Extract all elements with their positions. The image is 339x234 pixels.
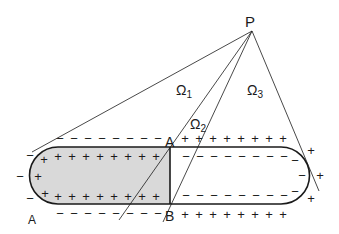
svg-text:−: −: [84, 131, 92, 146]
svg-text:−: −: [154, 131, 162, 146]
charges-outer-top-right: + + + + + + + +: [181, 131, 287, 146]
svg-text:+: +: [152, 149, 160, 164]
svg-text:−: −: [266, 149, 274, 164]
svg-text:−: −: [196, 188, 204, 203]
svg-text:−: −: [182, 149, 190, 164]
label-A-top: A: [165, 134, 175, 150]
svg-text:−: −: [291, 184, 299, 199]
charges-inner-right-top: − − − − − − − −: [182, 149, 288, 164]
svg-text:+: +: [96, 189, 104, 204]
svg-text:+: +: [223, 131, 231, 146]
svg-text:−: −: [210, 149, 218, 164]
svg-text:−: −: [210, 188, 218, 203]
svg-text:+: +: [110, 149, 118, 164]
svg-text:−: −: [112, 131, 120, 146]
label-B-bottom: B: [165, 208, 174, 224]
svg-text:+: +: [41, 186, 49, 201]
svg-text:+: +: [124, 149, 132, 164]
svg-text:+: +: [181, 131, 189, 146]
svg-text:+: +: [96, 149, 104, 164]
svg-text:+: +: [279, 131, 287, 146]
svg-text:+: +: [110, 189, 118, 204]
svg-text:+: +: [152, 189, 160, 204]
svg-text:−: −: [16, 169, 24, 184]
svg-text:−: −: [26, 191, 34, 206]
label-omega3: Ω3: [247, 82, 263, 100]
svg-text:+: +: [265, 207, 273, 222]
svg-text:+: +: [82, 149, 90, 164]
svg-text:−: −: [140, 206, 148, 221]
svg-text:−: −: [224, 149, 232, 164]
label-omega1: Ω1: [176, 82, 192, 100]
charges-outer-bottom-right: + + + + + + + +: [181, 207, 287, 222]
svg-text:−: −: [238, 188, 246, 203]
charges-outer-top-left: − − − − − − − −: [56, 131, 162, 146]
svg-text:−: −: [196, 149, 204, 164]
charges-outer-bottom-left: − − − − − − − −: [56, 206, 162, 221]
svg-text:−: −: [70, 131, 78, 146]
svg-text:+: +: [68, 189, 76, 204]
svg-text:+: +: [307, 143, 315, 158]
svg-text:−: −: [56, 206, 64, 221]
ray-tangent-right: [252, 31, 319, 191]
svg-text:−: −: [98, 206, 106, 221]
svg-text:−: −: [98, 131, 106, 146]
svg-text:−: −: [224, 188, 232, 203]
svg-text:+: +: [237, 207, 245, 222]
svg-text:−: −: [280, 188, 288, 203]
svg-text:−: −: [280, 149, 288, 164]
charges-inner-right-bottom: − − − − − − − −: [182, 188, 288, 203]
charge-inner-left-cap: +: [34, 169, 42, 184]
svg-text:−: −: [238, 149, 246, 164]
svg-text:+: +: [265, 131, 273, 146]
svg-text:−: −: [252, 149, 260, 164]
svg-text:−: −: [266, 188, 274, 203]
svg-text:−: −: [70, 206, 78, 221]
svg-text:−: −: [298, 168, 306, 183]
svg-text:−: −: [56, 131, 64, 146]
svg-text:−: −: [140, 131, 148, 146]
svg-text:−: −: [84, 206, 92, 221]
svg-text:+: +: [195, 131, 203, 146]
svg-text:−: −: [291, 153, 299, 168]
svg-text:+: +: [54, 149, 62, 164]
svg-text:+: +: [138, 149, 146, 164]
svg-text:−: −: [112, 206, 120, 221]
svg-text:+: +: [307, 191, 315, 206]
svg-text:−: −: [182, 188, 190, 203]
svg-text:−: −: [126, 206, 134, 221]
svg-text:−: −: [126, 131, 134, 146]
svg-text:+: +: [316, 168, 324, 183]
svg-text:−: −: [26, 148, 34, 163]
svg-text:+: +: [40, 152, 48, 167]
svg-text:+: +: [251, 207, 259, 222]
svg-text:+: +: [237, 131, 245, 146]
svg-text:+: +: [195, 207, 203, 222]
svg-text:+: +: [54, 189, 62, 204]
svg-text:+: +: [251, 131, 259, 146]
svg-text:+: +: [68, 149, 76, 164]
solid-angle-diagram: P Ω1 Ω2 Ω3 A B A − − − − − − − − + + + +…: [0, 0, 339, 234]
charges-inner-left-bottom: + + + + + + + + +: [41, 186, 160, 204]
svg-text:−: −: [252, 188, 260, 203]
svg-text:+: +: [138, 189, 146, 204]
svg-text:+: +: [181, 207, 189, 222]
svg-text:+: +: [223, 207, 231, 222]
label-P: P: [245, 13, 255, 30]
svg-text:+: +: [209, 207, 217, 222]
svg-text:+: +: [279, 207, 287, 222]
svg-text:+: +: [82, 189, 90, 204]
svg-text:+: +: [124, 189, 132, 204]
svg-text:+: +: [209, 131, 217, 146]
svg-text:−: −: [154, 206, 162, 221]
label-A-region: A: [28, 213, 36, 227]
